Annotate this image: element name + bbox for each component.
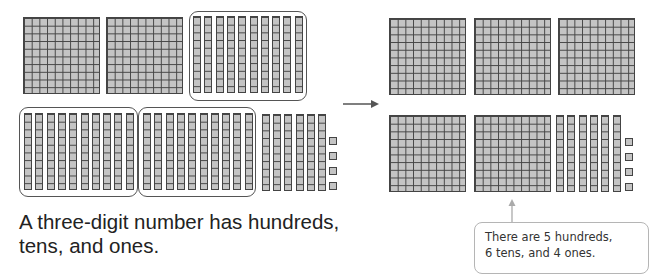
tens-rod xyxy=(114,113,122,190)
tens-rod xyxy=(69,113,77,190)
hundreds-flat xyxy=(474,18,551,95)
tens-rod xyxy=(81,113,89,190)
hundreds-flat xyxy=(389,18,466,95)
tens-rod xyxy=(47,113,55,190)
tens-rod xyxy=(227,16,235,93)
tens-rod xyxy=(188,113,196,190)
callout-line-1: There are 5 hundreds, xyxy=(485,229,638,245)
ones-cube xyxy=(625,138,633,146)
tens-rod xyxy=(261,16,269,93)
tens-rod xyxy=(613,115,621,192)
tens-rod xyxy=(262,114,270,191)
callout-box: There are 5 hundreds, 6 tens, and 4 ones… xyxy=(474,222,649,274)
tens-rod xyxy=(24,113,32,190)
tens-rod xyxy=(126,113,134,190)
up-arrow-icon xyxy=(506,198,518,224)
tens-rod xyxy=(567,115,575,192)
tens-rod xyxy=(296,114,304,191)
hundreds-flat xyxy=(558,18,635,95)
tens-rod xyxy=(58,113,66,190)
ones-cube xyxy=(329,137,337,145)
ones-cube xyxy=(625,153,633,161)
tens-rod xyxy=(245,113,253,190)
tens-rod xyxy=(238,16,246,93)
tens-rod xyxy=(250,16,258,93)
tens-rod xyxy=(143,113,151,190)
tens-rod xyxy=(193,16,201,93)
tens-rod xyxy=(579,115,587,192)
hundreds-flat xyxy=(474,115,551,192)
tens-rod xyxy=(92,113,100,190)
ones-cube xyxy=(329,167,337,175)
tens-rod xyxy=(35,113,43,190)
ones-cube xyxy=(329,182,337,190)
caption-line-1: A three-digit number has hundreds, xyxy=(19,210,339,234)
tens-rod xyxy=(284,114,292,191)
right-arrow-icon xyxy=(340,97,382,111)
tens-rod xyxy=(103,113,111,190)
tens-rod xyxy=(154,113,162,190)
caption-line-2: tens, and ones. xyxy=(19,234,339,258)
tens-rod xyxy=(222,113,230,190)
tens-rod xyxy=(601,115,609,192)
tens-rod xyxy=(295,16,303,93)
ones-cube xyxy=(329,152,337,160)
hundreds-flat xyxy=(106,17,183,94)
tens-rod xyxy=(556,115,564,192)
hundreds-flat xyxy=(23,17,100,94)
tens-rod xyxy=(204,16,212,93)
tens-rod xyxy=(283,16,291,93)
tens-rod xyxy=(273,114,281,191)
ones-cube xyxy=(625,168,633,176)
tens-rod xyxy=(318,114,326,191)
hundreds-flat xyxy=(389,115,466,192)
tens-rod xyxy=(233,113,241,190)
tens-rod xyxy=(166,113,174,190)
tens-rod xyxy=(216,16,224,93)
tens-rod xyxy=(211,113,219,190)
tens-rod xyxy=(590,115,598,192)
ones-cube xyxy=(625,183,633,191)
caption-text: A three-digit number has hundreds, tens,… xyxy=(19,210,339,258)
tens-rod xyxy=(200,113,208,190)
tens-rod xyxy=(272,16,280,93)
tens-rod xyxy=(177,113,185,190)
tens-rod xyxy=(307,114,315,191)
callout-line-2: 6 tens, and 4 ones. xyxy=(485,245,638,261)
